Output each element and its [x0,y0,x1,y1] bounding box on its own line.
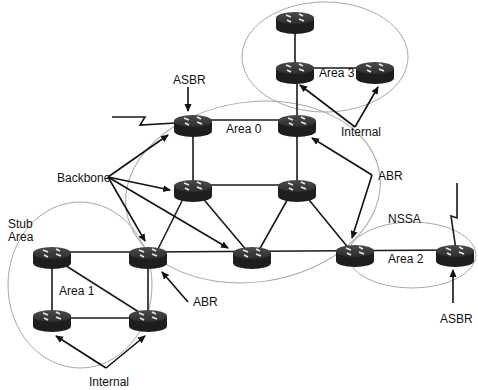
label-stub-line2: Area [8,230,34,244]
label-abr-left: ABR [193,295,218,309]
label-internal-bottom: Internal [89,375,129,389]
ospf-diagram: ASBR Area 0 Area 3 Internal Backbone ABR… [0,0,478,390]
label-nssa: NSSA [388,212,421,226]
router-r3-mid [276,62,314,84]
router-r0-mid-left [174,180,212,202]
label-abr-right: ABR [378,169,403,183]
label-asbr-top: ASBR [173,73,206,87]
router-r3-right [356,62,394,84]
serial-link-right [451,183,457,250]
label-area3: Area 3 [319,66,355,80]
router-r1-top-left [33,247,71,269]
router-r0-asbr [174,115,212,137]
router-r2-abr [336,245,374,267]
label-backbone: Backbone [57,171,111,185]
label-area0: Area 0 [226,122,262,136]
router-r0-abr-top [278,115,316,137]
label-area1: Area 1 [59,284,95,298]
label-stub-line1: Stub [8,217,33,231]
router-r0-mid-right [278,180,316,202]
router-r3-top [276,12,314,34]
area3-boundary [242,2,408,112]
label-internal-top: Internal [341,125,381,139]
router-r1-bottom-right [129,310,167,332]
router-r1-bottom-left [33,310,71,332]
label-asbr-bottom: ASBR [440,312,473,326]
router-r2-asbr [436,245,474,267]
router-r0-center [233,247,271,269]
label-area2: Area 2 [388,252,424,266]
router-r1-abr [129,247,167,269]
